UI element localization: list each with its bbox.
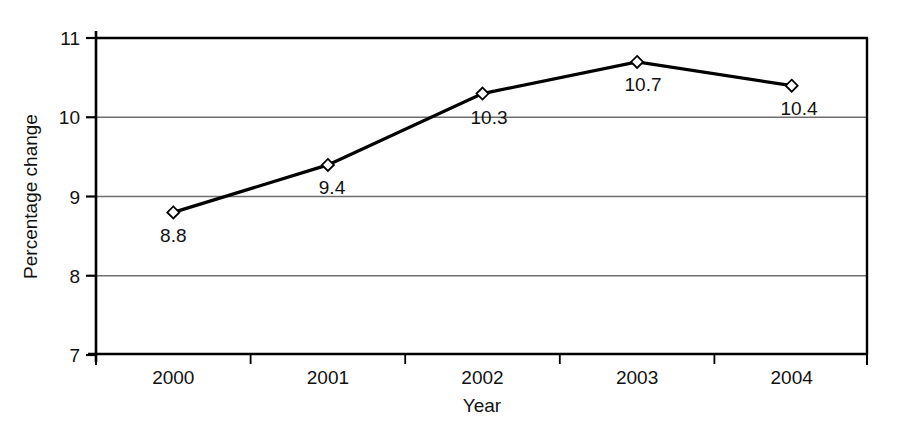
line-chart: 11 10 9 8 7 2000 2001 2002 2003 2004 8.8 bbox=[0, 0, 901, 440]
y-tick-labels: 11 10 9 8 7 bbox=[59, 28, 80, 366]
value-label-2001: 9.4 bbox=[319, 177, 346, 198]
y-tick-label-8: 8 bbox=[69, 266, 80, 287]
x-tick-labels: 2000 2001 2002 2003 2004 bbox=[152, 367, 813, 388]
x-axis-ticks bbox=[96, 354, 867, 365]
value-label-2003: 10.7 bbox=[625, 74, 662, 95]
value-label-2004: 10.4 bbox=[781, 98, 818, 119]
chart-figure: 11 10 9 8 7 2000 2001 2002 2003 2004 8.8 bbox=[0, 0, 901, 440]
value-label-2002: 10.3 bbox=[471, 107, 508, 128]
x-tick-label-2003: 2003 bbox=[616, 367, 658, 388]
x-tick-label-2001: 2001 bbox=[307, 367, 349, 388]
x-tick-label-2004: 2004 bbox=[771, 367, 814, 388]
y-axis-title: Percentage change bbox=[20, 114, 41, 279]
y-tick-label-9: 9 bbox=[69, 187, 80, 208]
x-tick-label-2000: 2000 bbox=[152, 367, 194, 388]
value-label-2000: 8.8 bbox=[160, 225, 186, 246]
y-tick-label-11: 11 bbox=[60, 28, 80, 49]
y-tick-label-7: 7 bbox=[69, 345, 80, 366]
x-axis-title: Year bbox=[463, 395, 502, 416]
y-tick-label-10: 10 bbox=[59, 107, 80, 128]
y-axis-ticks bbox=[86, 38, 96, 355]
x-tick-label-2002: 2002 bbox=[461, 367, 503, 388]
